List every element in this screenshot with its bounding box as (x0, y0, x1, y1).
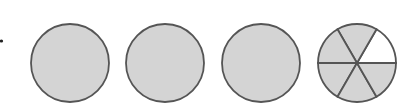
fraction-circles-diagram (0, 0, 406, 105)
fraction-circle-3 (222, 24, 300, 102)
fraction-circle-2 (126, 24, 204, 102)
fraction-circle-4 (318, 24, 396, 102)
bullet-dot (0, 39, 3, 42)
fraction-circle-1 (31, 24, 109, 102)
